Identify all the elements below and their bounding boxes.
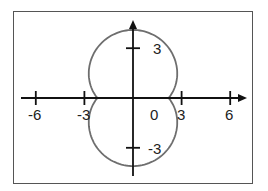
x-tick-label-pos3: 3 bbox=[177, 107, 185, 122]
x-axis-arrow-icon bbox=[238, 94, 247, 102]
origin-label: 0 bbox=[150, 107, 158, 122]
y-tick-label-pos3: 3 bbox=[153, 41, 161, 56]
y-axis-arrow-icon bbox=[129, 20, 137, 29]
x-tick-label-pos6: 6 bbox=[225, 107, 233, 122]
x-tick-label-neg3: -3 bbox=[77, 107, 90, 122]
x-tick-label-neg6: -6 bbox=[28, 107, 41, 122]
polar-plot bbox=[0, 0, 268, 191]
y-tick-label-neg3: -3 bbox=[148, 141, 161, 156]
